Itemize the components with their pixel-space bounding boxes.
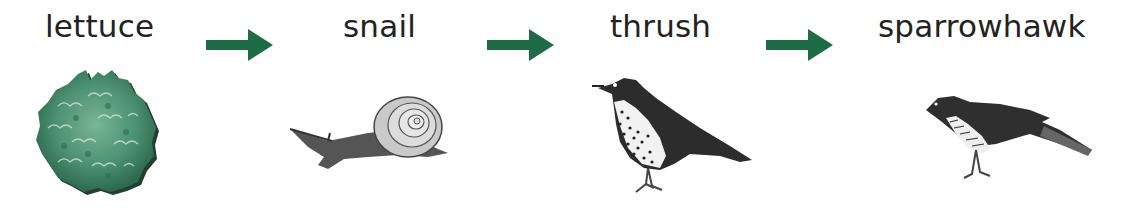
sparrowhawk-icon — [920, 92, 1100, 192]
arrow-right-icon — [766, 28, 834, 62]
arrow-right-icon — [487, 28, 555, 62]
label-thrush: thrush — [610, 8, 711, 44]
label-lettuce: lettuce — [45, 8, 154, 44]
thrush-icon — [590, 72, 760, 197]
label-sparrowhawk: sparrowhawk — [878, 8, 1086, 44]
label-snail: snail — [343, 8, 416, 44]
arrow-right-icon — [206, 28, 274, 62]
snail-icon — [288, 95, 453, 175]
lettuce-icon — [28, 66, 163, 196]
